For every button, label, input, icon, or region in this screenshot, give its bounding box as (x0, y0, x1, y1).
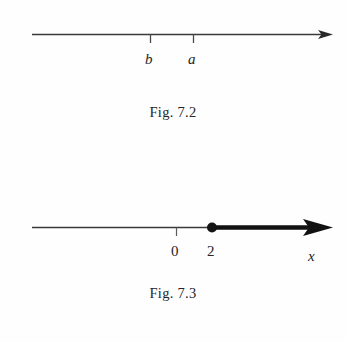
tick-label-zero: 0 (171, 244, 179, 259)
figure-7-2: b a Fig. 7.2 (0, 0, 346, 171)
figure-7-3: 0 2 x Fig. 7.3 (0, 171, 346, 342)
figure-caption-7-2: Fig. 7.2 (0, 104, 346, 121)
closed-point-marker (207, 223, 217, 233)
tick-label-b: b (145, 52, 153, 67)
tick-label-two: 2 (207, 244, 215, 259)
figure-page: b a Fig. 7.2 0 2 x Fig. 7.3 (0, 0, 346, 342)
tick-label-a: a (188, 52, 196, 67)
axis-label-x: x (308, 249, 315, 264)
figure-caption-7-3: Fig. 7.3 (0, 285, 346, 302)
number-line-7-3 (0, 171, 346, 291)
number-line-7-2 (0, 0, 346, 120)
